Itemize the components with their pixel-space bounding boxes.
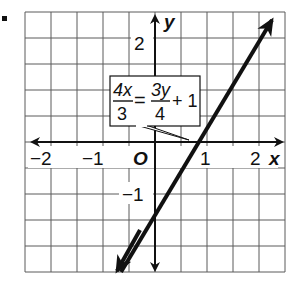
x-axis-label: x bbox=[268, 148, 281, 169]
eq-rhs-tail: + 1 bbox=[172, 91, 198, 111]
eq-lhs-denominator: 3 bbox=[117, 104, 127, 124]
x-tick-2: 2 bbox=[250, 148, 261, 169]
eq-lhs-numerator: 4x bbox=[113, 80, 133, 100]
y-tick-2: 2 bbox=[134, 33, 145, 54]
y-tick-neg1: −1 bbox=[122, 184, 144, 205]
eq-rhs-numerator: 3y bbox=[151, 80, 171, 100]
eq-equals: = bbox=[134, 89, 146, 111]
axes bbox=[32, 16, 282, 270]
problem-marker bbox=[2, 16, 7, 21]
y-axis-label: y bbox=[163, 11, 176, 32]
x-tick-1: 1 bbox=[200, 148, 211, 169]
coordinate-plane: −2 −1 O 1 2 x 2 −1 y 4x 3 = 3y 4 + 1 bbox=[0, 0, 292, 296]
equation-callout: 4x 3 = 3y 4 + 1 bbox=[110, 76, 200, 140]
origin-label: O bbox=[133, 148, 148, 169]
graph-figure: −2 −1 O 1 2 x 2 −1 y 4x 3 = 3y 4 + 1 bbox=[0, 0, 292, 296]
x-tick-neg2: −2 bbox=[30, 148, 52, 169]
eq-rhs-denominator: 4 bbox=[155, 104, 165, 124]
x-tick-neg1: −1 bbox=[82, 148, 104, 169]
